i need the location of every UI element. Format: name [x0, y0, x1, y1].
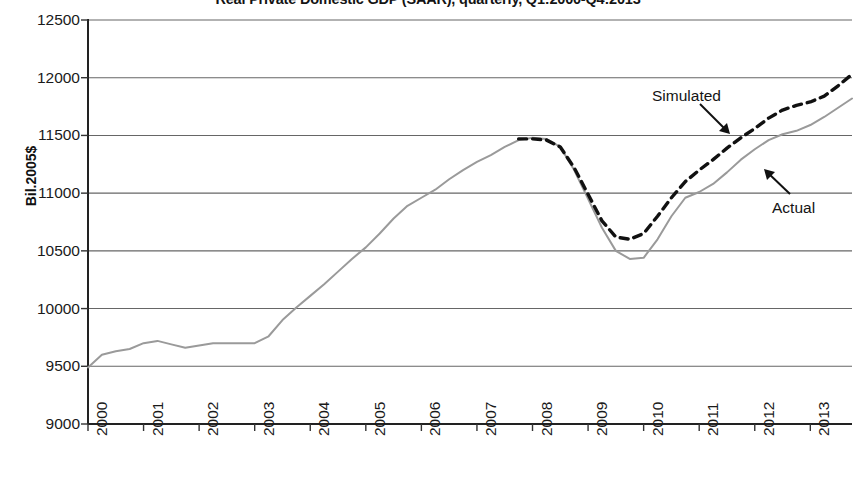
- x-tick-label: 2001: [150, 402, 166, 436]
- x-tick-label: 2008: [539, 402, 555, 436]
- annotation-label-actual: Actual: [772, 199, 815, 217]
- chart-container: Real Private Domestic GDP (SAAR), quarte…: [0, 0, 856, 484]
- x-tick-label: 2012: [761, 402, 777, 436]
- x-axis-tick-labels: 2000200120022003200420052006200720082009…: [0, 0, 856, 484]
- x-tick-label: 2009: [594, 402, 610, 436]
- x-tick-label: 2000: [94, 402, 110, 436]
- x-tick-label: 2002: [205, 402, 221, 436]
- x-tick-label: 2005: [372, 402, 388, 436]
- x-tick-label: 2013: [816, 402, 832, 436]
- x-tick-label: 2007: [483, 402, 499, 436]
- x-tick-label: 2003: [261, 402, 277, 436]
- x-tick-label: 2011: [705, 403, 721, 436]
- x-tick-label: 2006: [427, 402, 443, 436]
- x-tick-label: 2010: [650, 402, 666, 436]
- annotation-label-simulated: Simulated: [652, 87, 721, 105]
- x-tick-label: 2004: [316, 402, 332, 436]
